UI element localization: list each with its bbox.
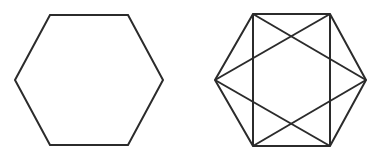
- triangle-down-side-a: [215, 14, 330, 80]
- plain-hexagon-figure: [15, 15, 163, 145]
- star-hexagon-figure: [215, 14, 366, 146]
- star-hexagon-outline: [215, 14, 366, 146]
- hexagon-figures-svg: [0, 0, 385, 163]
- triangle-down-side-b: [215, 80, 330, 146]
- star-hexagon-interior-lines: [215, 14, 366, 146]
- figure-canvas: [0, 0, 385, 163]
- plain-hexagon-outline: [15, 15, 163, 145]
